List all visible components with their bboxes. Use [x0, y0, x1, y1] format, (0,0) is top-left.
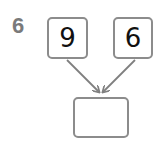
- arrow-left: [67, 60, 99, 92]
- arrow-right: [103, 60, 135, 92]
- answer-box[interactable]: [73, 97, 129, 138]
- addend-box-1: 9: [47, 17, 88, 59]
- addend-1-value: 9: [59, 25, 76, 51]
- addend-2-value: 6: [125, 25, 142, 51]
- addend-box-2: 6: [113, 17, 153, 59]
